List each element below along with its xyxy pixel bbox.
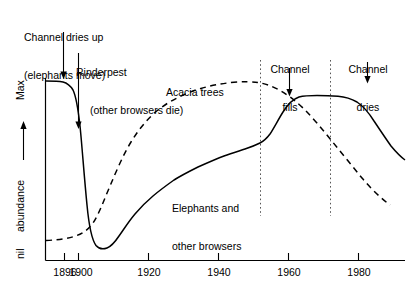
annotation-rinderpest-line2: (other browsers die) xyxy=(90,104,183,117)
annotation-channel-dries: Channel dries xyxy=(346,38,390,138)
x-axis-tick-label-1960: 1960 xyxy=(268,266,310,278)
y-axis-tick-label-nil: nil xyxy=(14,248,26,259)
y-axis-tick-label-max: Max xyxy=(14,80,26,100)
elephants-label-line1: Elephants and xyxy=(172,202,241,215)
x-axis-tick-label-1980: 1980 xyxy=(338,266,380,278)
elephants-label: Elephants and other browsers xyxy=(172,177,241,277)
annotation-channel-dries-line2: dries xyxy=(346,101,390,114)
annotation-channel-dries-line1: Channel xyxy=(346,63,390,76)
y-axis-title: abundance xyxy=(14,180,26,232)
elephants-label-line2: other browsers xyxy=(172,240,241,253)
annotation-channel-fills: Channel fills xyxy=(268,38,312,138)
x-axis-tick-label-1940: 1940 xyxy=(198,266,240,278)
arrow-head-abundance xyxy=(20,121,26,129)
figure-root: Channel dries up (elephants move) Rinder… xyxy=(0,0,415,292)
acacia-trees-label: Acacia trees xyxy=(166,86,224,99)
annotation-channel-fills-line2: fills xyxy=(268,101,312,114)
annotation-rinderpest-line1: Rinderpest xyxy=(76,66,183,79)
x-axis-tick-label-1900: 1900 xyxy=(60,266,102,278)
annotation-channel-fills-line1: Channel xyxy=(268,63,312,76)
x-axis-tick-label-1920: 1920 xyxy=(128,266,170,278)
